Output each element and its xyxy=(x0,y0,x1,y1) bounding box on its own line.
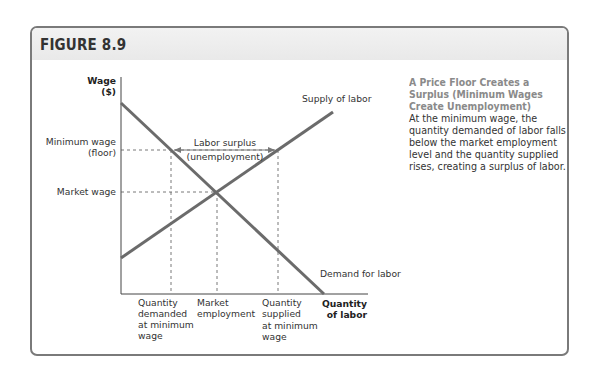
surplus-sublabel: (unemployment) xyxy=(187,151,264,162)
guide-lines xyxy=(121,150,278,294)
surplus-label: Labor surplus xyxy=(194,137,256,148)
y-axis-unit: ($) xyxy=(101,86,116,97)
qd-label-4: wage xyxy=(138,330,163,341)
qs-label-1: Quantity xyxy=(262,297,302,308)
y-axis-label: Wage xyxy=(87,75,116,86)
min-wage-floor-label: (floor) xyxy=(88,147,116,158)
caption-title: A Price Floor Creates a Surplus (Minimum… xyxy=(409,76,567,112)
me-label-1: Market xyxy=(197,297,229,308)
x-axis-label: Quantity xyxy=(322,298,367,309)
qs-label-4: wage xyxy=(262,331,287,342)
qd-label-2: demanded xyxy=(138,308,187,319)
min-wage-label: Minimum wage xyxy=(46,136,116,147)
qd-label-1: Quantity xyxy=(138,297,178,308)
demand-label: Demand for labor xyxy=(320,268,401,279)
caption-body: At the minimum wage, the quantity demand… xyxy=(409,113,569,173)
qs-label-2: supplied xyxy=(262,308,301,319)
demand-curve xyxy=(121,103,324,294)
market-wage-label: Market wage xyxy=(57,186,116,197)
qd-label-3: at minimum xyxy=(138,319,194,330)
x-axis-label-2: of labor xyxy=(327,309,368,320)
qs-label-3: at minimum xyxy=(262,320,318,331)
figure-caption: A Price Floor Creates a Surplus (Minimum… xyxy=(409,76,569,173)
supply-label: Supply of labor xyxy=(302,93,372,104)
labor-market-chart: Wage ($) Minimum wage (floor) Market wag… xyxy=(0,0,603,390)
me-label-2: employment xyxy=(197,308,255,319)
